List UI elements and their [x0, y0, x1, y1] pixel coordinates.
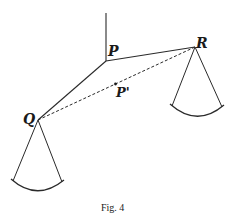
label-P-prime: P'	[115, 85, 130, 100]
pan-R	[170, 47, 224, 116]
label-R: R	[195, 35, 208, 51]
label-Q: Q	[23, 111, 35, 127]
arm-PQ	[38, 61, 106, 120]
label-P: P	[107, 43, 119, 59]
diagram-canvas: P R Q P' Fig. 4	[0, 0, 238, 224]
arm-PR	[106, 47, 195, 61]
pan-Q	[11, 120, 64, 191]
figure-caption: Fig. 4	[101, 202, 124, 213]
balance-diagram: P R Q P' Fig. 4	[0, 0, 238, 224]
